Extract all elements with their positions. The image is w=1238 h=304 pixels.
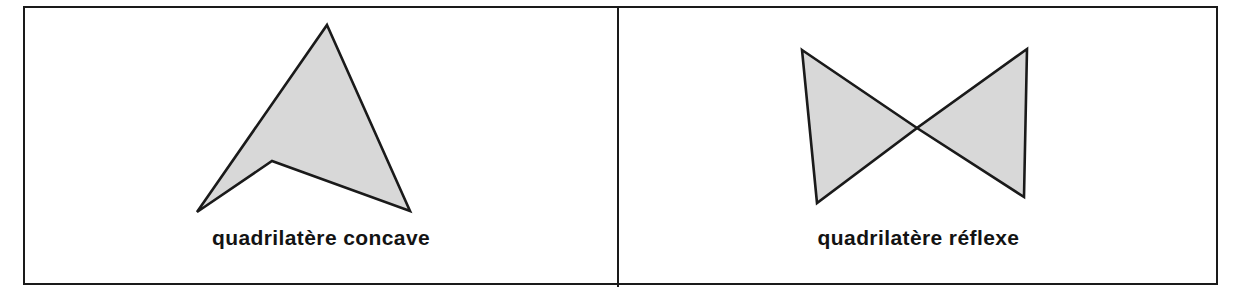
figure-root: quadrilatère concave quadrilatère réflex… [0,0,1238,304]
concave-quadrilateral-shape [197,25,410,212]
caption-reflexe: quadrilatère réflexe [619,226,1218,250]
caption-concave: quadrilatère concave [23,226,619,250]
panel-concave: quadrilatère concave [23,6,619,285]
panel-reflexe: quadrilatère réflexe [619,6,1218,285]
crossed-quadrilateral-left-lobe [802,50,917,203]
crossed-quadrilateral-right-lobe [917,49,1027,197]
